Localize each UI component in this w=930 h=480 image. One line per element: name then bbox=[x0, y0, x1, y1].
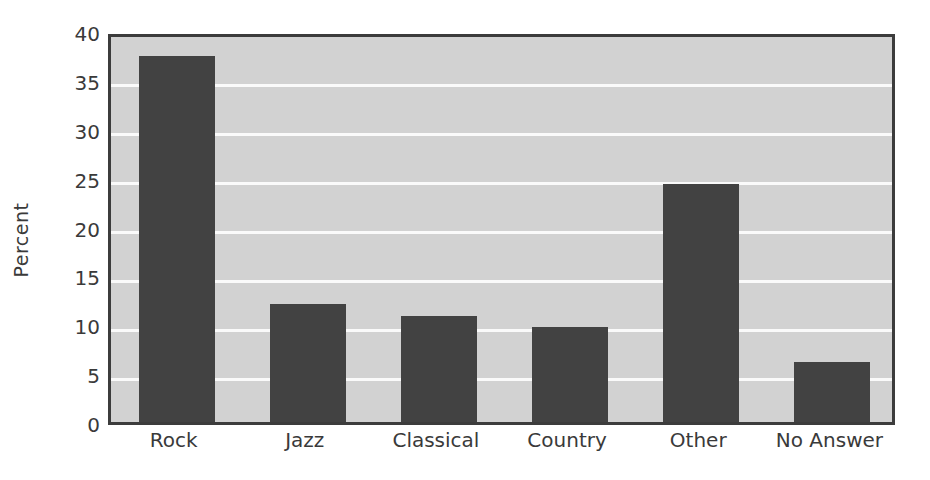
y-tick-label: 35 bbox=[42, 73, 100, 93]
plot-area bbox=[108, 34, 895, 425]
y-tick-label: 25 bbox=[42, 171, 100, 191]
x-tick-label: No Answer bbox=[776, 428, 883, 452]
y-tick-label: 40 bbox=[42, 24, 100, 44]
bar bbox=[532, 327, 608, 422]
x-axis-tick-labels: RockJazzClassicalCountryOtherNo Answer bbox=[108, 428, 895, 458]
x-tick-label: Rock bbox=[150, 428, 198, 452]
y-tick-label: 30 bbox=[42, 122, 100, 142]
x-tick-label: Classical bbox=[392, 428, 479, 452]
y-tick-label: 20 bbox=[42, 220, 100, 240]
bar bbox=[794, 362, 870, 422]
bar bbox=[139, 56, 215, 422]
bar bbox=[663, 184, 739, 422]
x-tick-label: Other bbox=[670, 428, 727, 452]
y-tick-label: 15 bbox=[42, 268, 100, 288]
x-tick-label: Jazz bbox=[285, 428, 324, 452]
y-axis-tick-labels: 0510152025303540 bbox=[42, 34, 100, 425]
bar-series bbox=[111, 37, 892, 422]
x-tick-label: Country bbox=[527, 428, 606, 452]
bar bbox=[401, 316, 477, 422]
bar bbox=[270, 304, 346, 422]
y-axis-title: Percent bbox=[0, 0, 42, 480]
bar-chart-figure: Percent 0510152025303540 RockJazzClassic… bbox=[0, 0, 930, 480]
y-tick-label: 5 bbox=[42, 366, 100, 386]
y-tick-label: 10 bbox=[42, 317, 100, 337]
y-tick-label: 0 bbox=[42, 415, 100, 435]
